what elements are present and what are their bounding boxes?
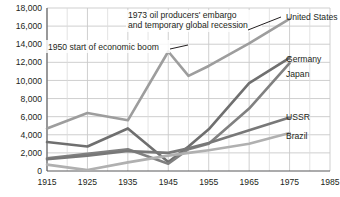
x-tick-label: 1975 — [280, 177, 299, 187]
y-tick-label: 10,000 — [16, 76, 43, 86]
y-tick-label: 4,000 — [20, 130, 42, 140]
line-chart: 02,0004,0006,0008,00010,00012,00014,0001… — [0, 0, 340, 197]
annotation-boom: 1950 start of economic boom — [46, 40, 188, 53]
x-tick-label: 1985 — [320, 177, 339, 187]
x-axis-tick-labels: 19151925193519451955196519751985 — [37, 177, 339, 187]
x-tick-label: 1925 — [78, 177, 97, 187]
y-tick-label: 2,000 — [20, 148, 42, 158]
annotation-boom-line1: 1950 start of economic boom — [48, 42, 159, 52]
x-tick-label: 1935 — [118, 177, 137, 187]
series-label-brazil: Brazil — [286, 131, 308, 141]
series-label-ussr: USSR — [286, 112, 310, 122]
x-tick-label: 1955 — [199, 177, 218, 187]
x-tick-label: 1945 — [159, 177, 178, 187]
y-tick-label: 14,000 — [16, 39, 43, 49]
y-tick-label: 16,000 — [16, 21, 43, 31]
x-tick-label: 1915 — [37, 177, 56, 187]
y-tick-label: 18,000 — [16, 3, 43, 13]
series-label-japan: Japan — [286, 69, 310, 79]
annotation-embargo-line1: 1973 oil producers' embargo — [128, 10, 237, 20]
y-tick-label: 6,000 — [20, 112, 42, 122]
series-label-united-states: United States — [286, 12, 338, 22]
y-tick-label: 0 — [37, 166, 42, 176]
series-label-germany: Germany — [286, 54, 322, 64]
x-tick-label: 1965 — [240, 177, 259, 187]
y-axis-tick-labels: 02,0004,0006,0008,00010,00012,00014,0001… — [16, 3, 43, 176]
y-tick-label: 8,000 — [20, 94, 42, 104]
annotation-embargo: 1973 oil producers' embargo and temporar… — [126, 10, 281, 32]
chart-container: 02,0004,0006,0008,00010,00012,00014,0001… — [0, 0, 340, 197]
y-tick-label: 12,000 — [16, 57, 43, 67]
annotation-embargo-line2: and temporary global recession — [128, 20, 248, 30]
